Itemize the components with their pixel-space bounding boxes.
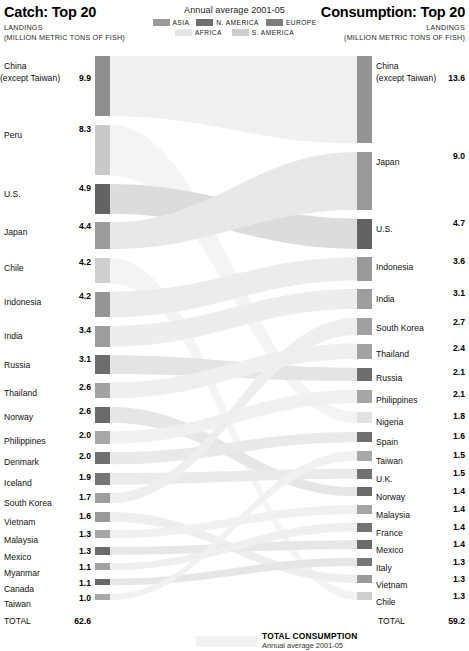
consumption-row[interactable]: Vietnam1.3 [355,574,469,592]
flow-ribbon [110,540,357,555]
consumption-value: 4.7 [453,218,469,228]
catch-name-wrap: Iceland [0,472,32,490]
consumption-value: 1.4 [453,539,469,549]
catch-row[interactable]: U.S.4.9 [0,183,112,201]
catch-row[interactable]: Peru8.3 [0,124,112,142]
catch-value: 1.1 [79,578,91,588]
consumption-name: Italy [376,563,392,573]
consumption-row[interactable]: Norway1.4 [355,486,469,504]
catch-row[interactable]: Chile4.2 [0,257,112,275]
consumption-row[interactable]: Malaysia1.4 [355,504,469,522]
catch-value: 4.2 [79,291,91,301]
consumption-name-wrap: Taiwan [376,450,403,468]
flow-ribbon [110,407,357,496]
catch-total-value: 62.6 [74,616,91,626]
consumption-name: Nigeria [376,417,403,427]
catch-name-wrap: Peru [0,124,22,142]
consumption-name-wrap: China(except Taiwan) [376,55,436,83]
catch-name-wrap: U.S. [0,183,21,201]
consumption-row[interactable]: Mexico1.4 [355,539,469,557]
consumption-name: Philippines [376,395,418,405]
consumption-row[interactable]: Spain1.6 [355,431,469,449]
catch-row[interactable]: Denmark2.0 [0,451,112,469]
consumption-name-wrap: Norway [376,486,405,504]
catch-name: Norway [0,412,33,422]
catch-name: Indonesia [0,297,41,307]
consumption-name: Russia [376,373,402,383]
catch-row[interactable]: India3.4 [0,325,112,343]
consumption-value: 9.0 [453,151,469,161]
catch-row[interactable]: Iceland1.9 [0,472,112,490]
consumption-row[interactable]: China(except Taiwan)13.6 [355,55,469,83]
catch-row[interactable]: Mexico1.3 [0,546,112,564]
catch-name-wrap: Denmark [0,451,39,469]
consumption-name-wrap: Indonesia [376,256,413,274]
consumption-name-wrap: U.S. [376,218,393,236]
consumption-name: Mexico [376,545,403,555]
legend-label: S. AMERICA [252,29,294,36]
catch-row[interactable]: Malaysia1.3 [0,529,112,547]
catch-row[interactable]: Norway2.6 [0,406,112,424]
catch-value: 1.0 [79,593,91,603]
legend-row-primary: ASIAN. AMERICAEUROPE [0,19,469,26]
flow-ribbon [110,152,357,249]
consumption-row[interactable]: South Korea2.7 [355,317,469,335]
catch-row[interactable]: Russia3.1 [0,354,112,372]
flow-ribbon [110,318,357,504]
flow-ribbon [110,344,357,399]
consumption-name-wrap: Italy [376,557,392,575]
consumption-row[interactable]: Indonesia3.6 [355,256,469,274]
consumption-name: France [376,528,403,538]
consumption-value: 1.6 [453,431,469,441]
consumption-value: 1.8 [453,411,469,421]
consumption-row[interactable]: Japan9.0 [355,151,469,169]
catch-row[interactable]: China(except Taiwan)9.9 [0,55,112,83]
consumption-row[interactable]: Russia2.1 [355,367,469,385]
consumption-row[interactable]: U.K.1.5 [355,468,469,486]
legend-row-secondary: AFRICAS. AMERICA [0,29,469,36]
catch-total-row: TOTAL62.6 [4,616,91,626]
catch-row[interactable]: Vietnam1.6 [0,511,112,529]
catch-value: 9.9 [79,73,91,83]
consumption-row[interactable]: Thailand2.4 [355,343,469,361]
legend-label: EUROPE [286,19,317,26]
consumption-name: Japan [376,157,399,167]
consumption-row[interactable]: U.S.4.7 [355,218,469,236]
consumption-row[interactable]: Taiwan1.5 [355,450,469,468]
consumption-row[interactable]: Philippines2.1 [355,389,469,407]
catch-row[interactable]: Japan4.4 [0,221,112,239]
flow-ribbon [110,505,357,538]
catch-name: South Korea [0,498,52,508]
catch-name-wrap: Norway [0,406,33,424]
catch-value: 1.7 [79,492,91,502]
catch-value: 2.6 [79,406,91,416]
flow-ribbon [110,390,357,444]
catch-row[interactable]: Indonesia4.2 [0,291,112,309]
consumption-name: U.S. [376,224,393,234]
catch-value: 1.9 [79,472,91,482]
legend-swatch-icon [196,19,213,26]
flow-ribbon [110,289,357,346]
footer-total-consumption: TOTAL CONSUMPTION Annual average 2001-05 [262,631,358,651]
consumption-row[interactable]: Chile1.3 [355,591,469,609]
catch-row[interactable]: Taiwan1.0 [0,593,112,611]
catch-name: Iceland [0,478,32,488]
catch-row[interactable]: Thailand2.6 [0,382,112,400]
consumption-value: 13.6 [448,73,469,83]
consumption-row[interactable]: Nigeria1.8 [355,411,469,429]
catch-name: Philippines [0,436,46,446]
consumption-name: Thailand [376,349,409,359]
consumption-value: 3.6 [453,256,469,266]
legend-item-s-america: S. AMERICA [232,29,294,36]
consumption-row[interactable]: India3.1 [355,288,469,306]
catch-row[interactable]: Philippines2.0 [0,430,112,448]
catch-row[interactable]: South Korea1.7 [0,492,112,510]
consumption-row[interactable]: Italy1.3 [355,557,469,575]
consumption-name-wrap: Thailand [376,343,409,361]
consumption-name: Vietnam [376,580,407,590]
consumption-value: 1.5 [453,468,469,478]
consumption-value: 1.5 [453,450,469,460]
consumption-row[interactable]: France1.4 [355,522,469,540]
consumption-name-wrap: Mexico [376,539,403,557]
legend-label: AFRICA [195,29,222,36]
